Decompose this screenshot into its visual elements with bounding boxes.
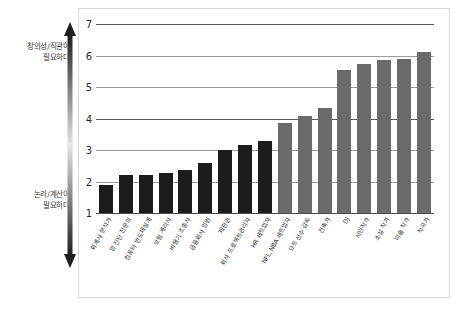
vertical-double-arrow-icon bbox=[64, 22, 76, 268]
x-label-slot: 회계사 분석가 bbox=[96, 214, 116, 294]
bar[interactable] bbox=[337, 70, 351, 213]
annotation-low-label: 논리/계산이 필요하다 bbox=[2, 190, 70, 212]
bar-slot bbox=[315, 24, 335, 213]
bar[interactable] bbox=[278, 123, 292, 213]
bar[interactable] bbox=[417, 52, 431, 213]
x-axis-tick-label: 미술 작가 bbox=[392, 216, 412, 242]
x-label-slot: 작곡가 bbox=[414, 214, 434, 294]
bar-slot bbox=[335, 24, 355, 213]
x-label-slot: NFL, NBA 세트업자 bbox=[275, 214, 295, 294]
bar[interactable] bbox=[178, 170, 192, 213]
bar-series bbox=[96, 24, 434, 213]
chart-page: 창의성/직관이 필요하다 논리/계산이 필요하다 12 bbox=[0, 0, 459, 313]
x-axis-labels: 회계사 분석가암 진단 전문의컴퓨터 반도체설계보험 계리사비행기 조종사금융회… bbox=[96, 214, 434, 294]
y-tick-label-7: 7 bbox=[86, 19, 92, 30]
x-label-slot: 비행기 조종사 bbox=[176, 214, 196, 294]
bar[interactable] bbox=[198, 163, 212, 213]
bar-slot bbox=[215, 24, 235, 213]
x-axis-tick-label: 작곡가 bbox=[415, 216, 431, 235]
bar[interactable] bbox=[238, 145, 252, 213]
y-tick-label-3: 3 bbox=[86, 145, 92, 156]
x-label-slot: 건축가 bbox=[315, 214, 335, 294]
x-axis-tick-label: 건축가 bbox=[316, 216, 332, 235]
bar[interactable] bbox=[139, 175, 153, 213]
bar-slot bbox=[354, 24, 374, 213]
bar-slot bbox=[136, 24, 156, 213]
bar-slot bbox=[235, 24, 255, 213]
x-axis-tick-label: 재판관 bbox=[217, 216, 233, 235]
x-label-slot: 보험 계리사 bbox=[156, 214, 176, 294]
bar-slot bbox=[394, 24, 414, 213]
plot-area: 1234567 bbox=[96, 24, 434, 213]
bar-slot bbox=[156, 24, 176, 213]
x-label-slot: 컴퓨터 반도체설계 bbox=[136, 214, 156, 294]
x-label-slot: DJ bbox=[335, 214, 355, 294]
y-tick-label-5: 5 bbox=[86, 82, 92, 93]
bar-slot bbox=[275, 24, 295, 213]
bar[interactable] bbox=[318, 108, 332, 213]
bar[interactable] bbox=[357, 64, 371, 213]
x-label-slot: 금융회사 임원 bbox=[195, 214, 215, 294]
x-label-slot: 소설 작가 bbox=[374, 214, 394, 294]
x-axis-tick-label: 소설 작가 bbox=[372, 216, 392, 242]
x-label-slot: 시인작가 bbox=[354, 214, 374, 294]
x-label-slot: 요트 선수 감독 bbox=[295, 214, 315, 294]
annotation-high-label: 창의성/직관이 필요하다 bbox=[2, 42, 70, 64]
bar-slot bbox=[195, 24, 215, 213]
bar-slot bbox=[255, 24, 275, 213]
x-label-slot: 회사 프로젝트관리자 bbox=[235, 214, 255, 294]
bar[interactable] bbox=[377, 60, 391, 213]
bar[interactable] bbox=[258, 141, 272, 213]
y-tick-label-4: 4 bbox=[86, 113, 92, 124]
x-axis-tick-label: DJ bbox=[341, 216, 350, 225]
bar-slot bbox=[176, 24, 196, 213]
bar-slot bbox=[96, 24, 116, 213]
x-axis-tick-label: 시인작가 bbox=[353, 216, 372, 240]
y-tick-label-2: 2 bbox=[86, 176, 92, 187]
bar-slot bbox=[374, 24, 394, 213]
bar[interactable] bbox=[119, 175, 133, 213]
bar-slot bbox=[295, 24, 315, 213]
bar[interactable] bbox=[99, 185, 113, 213]
y-tick-label-6: 6 bbox=[86, 50, 92, 61]
y-tick-label-1: 1 bbox=[86, 208, 92, 219]
bar[interactable] bbox=[397, 59, 411, 213]
bar[interactable] bbox=[159, 173, 173, 213]
x-label-slot: 미술 작가 bbox=[394, 214, 414, 294]
axis-annotation-column: 창의성/직관이 필요하다 논리/계산이 필요하다 bbox=[0, 0, 76, 313]
bar-slot bbox=[116, 24, 136, 213]
bar[interactable] bbox=[218, 150, 232, 213]
bar-slot bbox=[414, 24, 434, 213]
bar[interactable] bbox=[298, 116, 312, 213]
